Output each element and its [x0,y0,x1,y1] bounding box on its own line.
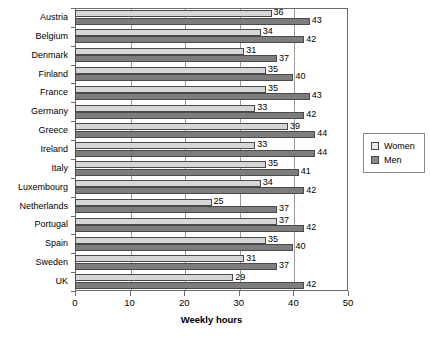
bar-women [75,237,266,244]
bar-men [75,150,315,157]
bar-men [75,93,310,100]
category-label-luxembourg: Luxembourg [0,183,68,192]
bar-group: 3540 [75,65,348,84]
bar-value-label-women: 33 [257,103,267,112]
bar-value-label-women: 34 [263,27,273,36]
legend-item-women: Women [371,140,424,152]
y-axis-tick [71,46,76,47]
category-label-portugal: Portugal [0,220,68,229]
bar-women [75,199,212,206]
weekly-hours-bar-chart: 3643344231373540354333423944334435413442… [0,0,430,339]
x-axis-label-30: 30 [224,298,254,308]
bar-value-label-women: 34 [263,178,273,187]
category-label-uk: UK [0,277,68,286]
legend-swatch-men-icon [371,156,379,164]
bar-group: 3543 [75,83,348,102]
bar-value-label-men: 37 [279,261,289,270]
bar-value-label-women: 35 [268,84,278,93]
x-axis-tick-30 [239,291,240,296]
bar-men [75,244,293,251]
bar-men [75,112,304,119]
category-label-greece: Greece [0,126,68,135]
bar-men [75,131,315,138]
x-axis-label-50: 50 [333,298,363,308]
bar-value-label-men: 40 [295,72,305,81]
bar-women [75,274,233,281]
category-label-denmark: Denmark [0,51,68,60]
bar-women [75,180,261,187]
bar-group: 3137 [75,253,348,272]
category-label-sweden: Sweden [0,258,68,267]
bar-women [75,161,266,168]
x-axis-tick-10 [130,291,131,296]
y-axis-tick [71,83,76,84]
x-axis-tick-20 [184,291,185,296]
bar-value-label-women: 35 [268,235,278,244]
bar-value-label-men: 42 [306,280,316,289]
bar-value-label-men: 41 [301,167,311,176]
bar-men [75,55,277,62]
bar-women [75,48,244,55]
bar-group: 3442 [75,27,348,46]
y-axis-tick [71,197,76,198]
category-label-spain: Spain [0,239,68,248]
bar-group: 3944 [75,121,348,140]
y-axis-tick [71,27,76,28]
x-axis-label-10: 10 [115,298,145,308]
y-axis-tick [71,159,76,160]
bar-men [75,206,277,213]
bar-group: 3137 [75,46,348,65]
y-axis-tick [71,65,76,66]
bar-women [75,123,288,130]
bar-women [75,142,255,149]
bar-value-label-women: 37 [279,216,289,225]
bar-group: 3742 [75,216,348,235]
y-axis-tick [71,8,76,9]
bar-value-label-men: 42 [306,186,316,195]
bar-men [75,282,304,289]
bar-value-label-men: 44 [317,148,327,157]
bar-men [75,74,293,81]
bar-men [75,263,277,270]
bar-value-label-men: 43 [312,16,322,25]
bar-group: 3541 [75,159,348,178]
category-label-netherlands: Netherlands [0,202,68,211]
bar-value-label-men: 42 [306,110,316,119]
bar-value-label-women: 31 [246,254,256,263]
y-axis-tick [71,272,76,273]
legend-label-men: Men [384,156,402,165]
bar-value-label-men: 42 [306,223,316,232]
x-axis-label-20: 20 [169,298,199,308]
bar-value-label-women: 35 [268,65,278,74]
bar-value-label-women: 39 [290,122,300,131]
bar-value-label-men: 40 [295,242,305,251]
category-label-ireland: Ireland [0,145,68,154]
y-axis-tick [71,234,76,235]
bar-group: 3342 [75,102,348,121]
bar-value-label-women: 31 [246,46,256,55]
x-axis-tick-0 [75,291,76,296]
bar-women [75,10,272,17]
bar-value-label-men: 37 [279,204,289,213]
bar-women [75,218,277,225]
y-axis-tick [71,216,76,217]
category-label-austria: Austria [0,13,68,22]
bar-group: 3344 [75,140,348,159]
bar-group: 3442 [75,178,348,197]
y-axis-tick [71,102,76,103]
bar-men [75,36,304,43]
chart-legend: Women Men [363,133,425,173]
category-label-germany: Germany [0,107,68,116]
bar-group: 2942 [75,272,348,291]
x-axis-label-40: 40 [278,298,308,308]
bar-men [75,18,310,25]
bar-value-label-women: 35 [268,159,278,168]
y-axis-tick [71,121,76,122]
bar-value-label-women: 36 [274,8,284,17]
category-label-france: France [0,88,68,97]
bar-rows: 3643344231373540354333423944334435413442… [75,8,348,291]
bar-men [75,169,299,176]
y-axis-tick [71,140,76,141]
bar-group: 2537 [75,197,348,216]
bar-women [75,255,244,262]
